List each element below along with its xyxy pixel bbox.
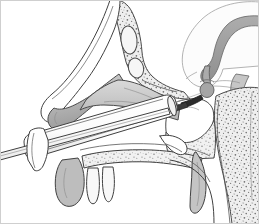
figure-root — [0, 0, 259, 224]
upper-lip — [55, 158, 84, 206]
anatomical-illustration-canvas — [0, 0, 259, 224]
pituitary-gland — [200, 83, 214, 98]
